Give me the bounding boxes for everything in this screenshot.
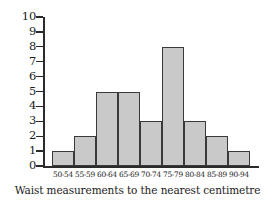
y-axis-tick-label: 6 — [0, 71, 36, 83]
y-axis-tick-label: 10 — [0, 11, 36, 23]
bar-series — [52, 17, 250, 166]
y-axis-tick-label-text: 7 — [2, 56, 36, 68]
x-axis-tick-label: 55-59 — [74, 170, 96, 179]
x-axis-tick-label: 70-74 — [140, 170, 162, 179]
y-axis-tick-label: 5 — [0, 86, 36, 98]
y-axis-tick-label: 3 — [0, 115, 36, 127]
bar-slot — [140, 17, 162, 166]
y-axis-tick-label: 7 — [0, 56, 36, 68]
y-axis-tick — [36, 106, 43, 107]
bar-slot — [96, 17, 118, 166]
y-axis-tick-label: 4 — [0, 100, 36, 112]
x-axis-tick-label: 80-84 — [184, 170, 206, 179]
histogram-bar — [162, 47, 184, 166]
y-axis-tick — [36, 31, 43, 32]
y-axis-tick-label-text: 3 — [2, 115, 36, 127]
y-axis-tick — [36, 150, 43, 151]
y-axis-tick — [36, 76, 43, 77]
y-axis-tick-label-text: 5 — [2, 86, 36, 98]
x-axis-tick-label: 50-54 — [52, 170, 74, 179]
x-axis-caption: Waist measurements to the nearest centim… — [0, 184, 275, 197]
plot-area: 012345678910 50-5455-5960-6465-6970-7475… — [0, 0, 275, 207]
y-axis-line — [43, 17, 45, 167]
y-axis-tick — [36, 91, 43, 92]
bar-slot — [228, 17, 250, 166]
histogram-figure: 012345678910 50-5455-5960-6465-6970-7475… — [0, 0, 275, 207]
y-axis-tick — [36, 61, 43, 62]
histogram-bar — [96, 92, 118, 167]
x-axis-tick-label: 60-64 — [96, 170, 118, 179]
y-axis-tick — [36, 121, 43, 122]
histogram-bar — [228, 151, 250, 166]
x-axis-tick-labels: 50-5455-5960-6465-6970-7475-7980-8485-89… — [52, 170, 250, 179]
y-axis-tick-label-text: 10 — [2, 11, 36, 23]
y-axis-tick-label-text: 1 — [2, 145, 36, 157]
y-axis-tick-label: 2 — [0, 130, 36, 142]
y-axis-tick-label: 9 — [0, 26, 36, 38]
bar-slot — [184, 17, 206, 166]
x-axis-line — [43, 166, 259, 168]
y-axis-tick-label-text: 9 — [2, 26, 36, 38]
y-axis-tick — [36, 46, 43, 47]
y-axis-tick-label-text: 0 — [2, 160, 36, 172]
bar-slot — [162, 17, 184, 166]
y-axis-tick-label-text: 6 — [2, 71, 36, 83]
y-axis-tick-label-text: 8 — [2, 41, 36, 53]
histogram-bar — [52, 151, 74, 166]
y-axis-tick — [36, 136, 43, 137]
bar-slot — [118, 17, 140, 166]
y-axis-tick-label: 1 — [0, 145, 36, 157]
histogram-bar — [74, 136, 96, 166]
y-axis-tick-label: 8 — [0, 41, 36, 53]
x-axis-tick-label: 85-89 — [206, 170, 228, 179]
bar-slot — [74, 17, 96, 166]
y-axis-tick — [36, 16, 43, 17]
y-axis-tick-label-text: 4 — [2, 100, 36, 112]
x-axis-tick-label: 75-79 — [162, 170, 184, 179]
histogram-bar — [206, 136, 228, 166]
x-axis-tick-label: 65-69 — [118, 170, 140, 179]
histogram-bar — [184, 121, 206, 166]
bar-slot — [52, 17, 74, 166]
histogram-bar — [118, 92, 140, 167]
bar-slot — [206, 17, 228, 166]
x-axis-tick-label: 90-94 — [228, 170, 250, 179]
y-axis-tick — [36, 165, 43, 166]
y-axis-tick-label: 0 — [0, 160, 36, 172]
histogram-bar — [140, 121, 162, 166]
y-axis-tick-label-text: 2 — [2, 130, 36, 142]
